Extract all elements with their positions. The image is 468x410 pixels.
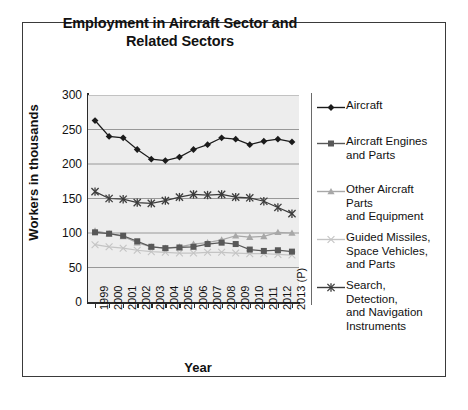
legend-item-3[interactable]: Guided Missiles, Space Vehicles, and Par… (316, 231, 430, 272)
y-tick-label: 0 (48, 297, 82, 307)
chart-title: Employment in Aircraft Sector and Relate… (40, 14, 320, 50)
legend-marker-asterisk-icon (316, 280, 346, 293)
legend-label-0: Aircraft (346, 99, 382, 113)
data-point-diamond (275, 136, 282, 143)
legend-label-3: Guided Missiles, Space Vehicles, and Par… (346, 231, 430, 272)
legend-marker-square-icon (316, 136, 346, 149)
x-tick-mark (236, 304, 237, 308)
x-tick-mark (250, 304, 251, 308)
data-point-diamond (190, 146, 197, 153)
data-point-diamond (246, 141, 253, 148)
data-point-diamond (204, 141, 211, 148)
x-tick-mark (194, 304, 195, 308)
data-point-square (247, 247, 253, 253)
x-tick-mark (137, 304, 138, 308)
data-point-square (162, 245, 168, 251)
y-tick-label: 100 (48, 228, 82, 238)
plot-area (88, 95, 299, 302)
data-point-square (261, 248, 267, 254)
data-point-square (219, 240, 225, 246)
chart-figure: Employment in Aircraft Sector and Relate… (0, 0, 468, 410)
data-point-diamond (162, 157, 169, 164)
x-tick-label: 2013 (P) (296, 268, 307, 310)
legend-item-0[interactable]: Aircraft (316, 99, 382, 113)
x-tick-mark (95, 304, 96, 308)
legend-item-4[interactable]: Search, Detection, and Navigation Instru… (316, 279, 439, 333)
x-axis-title: Year (118, 360, 278, 375)
data-point-square (289, 249, 295, 255)
y-tick-label: 150 (48, 194, 82, 204)
data-point-square (176, 244, 182, 250)
data-point-diamond (289, 139, 296, 146)
y-axis-title: Workers in thousands (26, 78, 41, 268)
legend-item-2[interactable]: Other Aircraft Parts and Equipment (316, 183, 439, 224)
legend-marker-triangle-icon (316, 184, 346, 197)
data-point-diamond (176, 154, 183, 161)
legend-label-1: Aircraft Engines and Parts (346, 135, 427, 162)
y-tick-label: 50 (48, 263, 82, 273)
data-point-square (328, 141, 334, 147)
data-point-asterisk (274, 203, 281, 211)
x-tick-mark (222, 304, 223, 308)
series-0 (92, 117, 296, 164)
x-tick-mark (109, 304, 110, 308)
data-point-asterisk (91, 187, 98, 195)
x-tick-mark (165, 304, 166, 308)
data-point-square (233, 241, 239, 247)
y-axis-tick-labels: 300250200150100500 (44, 0, 82, 410)
y-tick-label: 200 (48, 159, 82, 169)
data-point-square (92, 229, 98, 235)
data-point-square (134, 238, 140, 244)
data-point-diamond (218, 134, 225, 141)
data-point-diamond (260, 138, 267, 145)
data-point-square (148, 244, 154, 250)
y-tick-label: 250 (48, 125, 82, 135)
data-point-asterisk (288, 209, 295, 217)
data-point-square (275, 247, 281, 253)
y-tick-label: 300 (48, 90, 82, 100)
legend-item-1[interactable]: Aircraft Engines and Parts (316, 135, 427, 162)
chart-legend: AircraftAircraft Engines and PartsOther … (311, 93, 439, 305)
data-point-diamond (328, 104, 335, 111)
data-point-square (191, 244, 197, 250)
legend-marker-diamond-icon (316, 100, 346, 113)
x-tick-mark (264, 304, 265, 308)
legend-marker-x-thin-icon (316, 232, 346, 245)
x-tick-mark (123, 304, 124, 308)
x-tick-mark (179, 304, 180, 308)
x-tick-mark (208, 304, 209, 308)
x-tick-mark (292, 304, 293, 308)
data-point-square (106, 231, 112, 237)
series-canvas (88, 95, 299, 302)
series-4 (91, 187, 295, 217)
legend-label-2: Other Aircraft Parts and Equipment (346, 183, 439, 224)
x-tick-mark (151, 304, 152, 308)
data-point-square (205, 241, 211, 247)
legend-label-4: Search, Detection, and Navigation Instru… (346, 279, 439, 333)
data-point-square (120, 233, 126, 239)
x-tick-mark (278, 304, 279, 308)
data-point-diamond (232, 136, 239, 143)
